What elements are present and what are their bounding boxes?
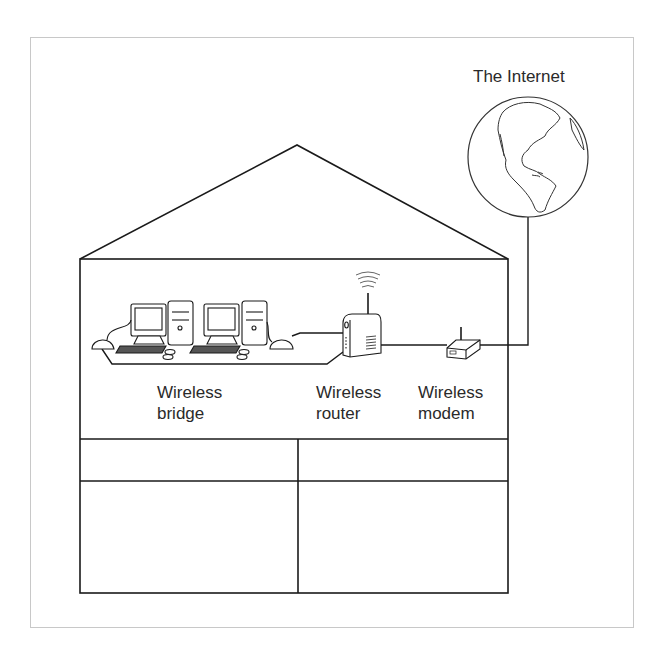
router-label-line1: Wireless <box>316 382 381 403</box>
router-label-line2: router <box>316 403 381 424</box>
computer-icon <box>116 301 193 360</box>
internet-cable <box>480 217 528 345</box>
bridge-label: Wireless bridge <box>157 382 222 424</box>
modem-label-line1: Wireless <box>418 382 483 403</box>
router-label: Wireless router <box>316 382 381 424</box>
computer-icon <box>190 301 267 360</box>
wireless-bridge-icon <box>92 320 131 349</box>
network-diagram <box>0 0 660 657</box>
house <box>80 145 508 593</box>
globe-icon <box>468 97 588 217</box>
wifi-signal-icon <box>356 272 380 287</box>
internet-label-text: The Internet <box>473 66 565 87</box>
internet-label: The Internet <box>473 66 565 87</box>
bridge-label-line2: bridge <box>157 403 222 424</box>
house-roof <box>80 145 508 259</box>
bridge-label-line1: Wireless <box>157 382 222 403</box>
bridge-cable-top <box>292 333 343 336</box>
modem-label: Wireless modem <box>418 382 483 424</box>
wireless-modem-icon <box>447 327 480 359</box>
wireless-bridge-icon <box>267 322 293 349</box>
modem-label-line2: modem <box>418 403 483 424</box>
wireless-router-icon <box>343 293 381 357</box>
